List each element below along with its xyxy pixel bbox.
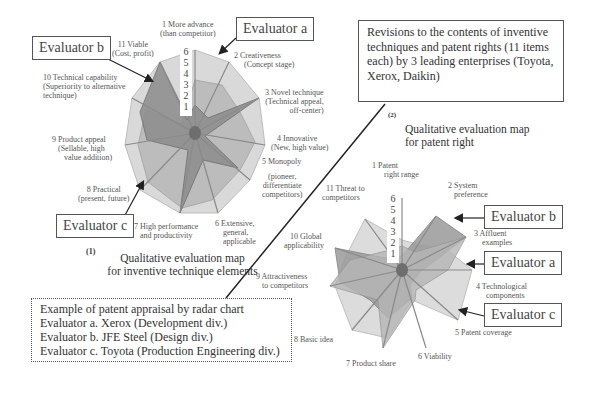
scale-labels-left: 6 5 4 3 2 1 <box>180 46 192 116</box>
revisions-note-box: Revisions to the contents of inventive t… <box>358 20 564 102</box>
scale-labels-right: 6 5 4 3 2 1 <box>387 193 399 263</box>
axis-label-11: 11 Threat tocompetitors <box>322 184 365 202</box>
axis-label-6: 6 Extensive,general,applicable <box>215 219 256 246</box>
example-line-evaluator-c: Evaluator c. Toyota (Production Engineer… <box>40 344 283 358</box>
evaluator-a-label-left: Evaluator a <box>236 17 314 41</box>
example-line-evaluator-a: Evaluator a. Xerox (Development div.) <box>40 316 283 330</box>
evaluator-b-label-left: Evaluator b <box>32 36 111 60</box>
scale-5: 5 <box>387 204 399 215</box>
axis-label-1: 1 More advance(than competitor) <box>160 20 216 38</box>
scale-6: 6 <box>387 193 399 204</box>
example-legend-box: Example of patent appraisal by radar cha… <box>31 298 292 362</box>
radar-chart-inventive-technique <box>125 50 265 213</box>
axis-label-7: 7 Product share <box>346 359 396 368</box>
axis-label-2: 2 Creativeness(Concept stage) <box>234 51 294 69</box>
scale-3: 3 <box>387 226 399 237</box>
axis-label-5: 5 Monopoly (pioneer,differentiatecompeti… <box>262 157 302 199</box>
scale-3: 3 <box>180 79 192 90</box>
axis-label-10: 10 Technical capability(Superiority to a… <box>43 73 126 100</box>
evaluator-c-label-left: Evaluator c <box>56 214 134 238</box>
evaluator-c-label-right: Evaluator c <box>484 303 562 327</box>
scale-1: 1 <box>180 101 192 112</box>
radar-center-dot <box>396 263 408 277</box>
scale-4: 4 <box>180 68 192 79</box>
axis-label-4: 4 Innovative(New, high value) <box>271 134 328 152</box>
axis-label-8: 8 Basic idea <box>294 335 333 344</box>
scale-5: 5 <box>180 57 192 68</box>
evaluator-a-label-right: Evaluator a <box>484 251 562 275</box>
axis-label-9: 9 Attractivenessto competitors <box>256 272 308 290</box>
axis-label-9: 9 Product appeal(Sellable, highvalue add… <box>52 135 112 162</box>
axis-label-1: 1 Patentright range <box>372 161 419 179</box>
axis-label-10: 10 Globalapplicability <box>284 232 324 250</box>
axis-label-6: 6 Viability <box>418 352 452 361</box>
scale-1: 1 <box>387 248 399 259</box>
scale-6: 6 <box>180 46 192 57</box>
scale-2: 2 <box>180 90 192 101</box>
axis-label-8: 8 Practical(present, future) <box>78 185 130 203</box>
evaluator-b-label-right: Evaluator b <box>484 205 563 229</box>
caption-right: Qualitative evaluation mapfor patent rig… <box>405 123 530 149</box>
axis-label-3: 3 Affluentexamples <box>474 229 512 247</box>
scale-2: 2 <box>387 237 399 248</box>
radar-chart-patent-right <box>330 198 472 348</box>
axis-label-3: 3 Novel technique(Technical appeal,off-c… <box>265 88 324 115</box>
scale-4: 4 <box>387 215 399 226</box>
axis-label-7: 7 High performanceand productivity <box>134 222 198 240</box>
chart-number-right: (2) <box>388 111 396 120</box>
example-line-evaluator-b: Evaluator b. JFE Steel (Design div.) <box>40 330 283 344</box>
axis-label-2: 2 Systempreference <box>448 181 488 199</box>
axis-label-5: 5 Patent coverage <box>455 328 512 337</box>
radar-center-dot <box>189 126 201 140</box>
axis-label-4: 4 Technologicalcomponents <box>476 282 527 300</box>
arrow-evaluator-c-right <box>460 310 484 316</box>
example-title: Example of patent appraisal by radar cha… <box>40 302 283 316</box>
caption-left: Qualitative evaluation mapfor inventive … <box>90 252 275 278</box>
axis-label-11: 11 Viable(Cost, profit) <box>112 40 154 58</box>
